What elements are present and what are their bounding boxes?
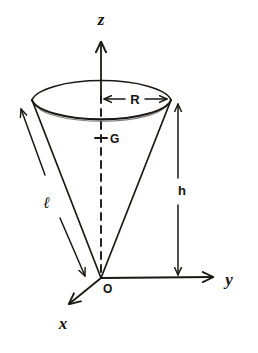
- slant-label: ℓ: [43, 194, 51, 211]
- z-axis-label: z: [97, 10, 105, 29]
- y-axis-label: y: [223, 270, 233, 289]
- x-axis-line: [69, 278, 101, 304]
- slant-dimension-group: ℓ: [21, 109, 85, 276]
- slant-dimension-arrow-upper: [21, 109, 45, 175]
- height-label: h: [178, 183, 186, 198]
- x-axis-group: x: [58, 278, 101, 333]
- height-dimension-group: h: [178, 104, 186, 275]
- y-axis-line: [101, 277, 213, 278]
- centroid-marker-group: G: [95, 132, 119, 146]
- radius-label: R: [130, 92, 140, 107]
- origin-label: O: [103, 282, 112, 296]
- cone-left-slant-edge: [32, 100, 101, 278]
- cone-diagram-figure: z G R h: [0, 0, 258, 353]
- centroid-label: G: [110, 132, 119, 146]
- z-axis-group: z: [97, 10, 105, 99]
- origin-marker-group: O: [103, 282, 112, 296]
- radius-dimension-group: R: [104, 92, 167, 107]
- x-axis-label: x: [58, 314, 68, 333]
- y-axis-group: y: [101, 270, 233, 289]
- cone-diagram-canvas: z G R h: [0, 0, 258, 353]
- cone-right-slant-edge: [101, 100, 171, 278]
